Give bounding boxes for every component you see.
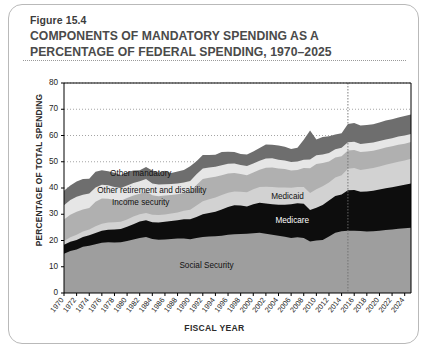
header-divider [23,60,406,61]
y-tick-label: 70 [49,104,59,113]
series-label: Medicare [275,216,309,225]
y-axis-ticks: 01020304050607080 [49,78,64,297]
page-title: COMPONENTS OF MANDATORY SPENDING AS A PE… [30,29,400,60]
y-tick-label: 40 [49,183,59,192]
figure-number: Figure 15.4 [30,14,400,27]
y-tick-label: 50 [49,157,59,166]
x-axis-label: FISCAL YEAR [9,323,420,333]
figure-header: Figure 15.4 COMPONENTS OF MANDATORY SPEN… [30,14,400,60]
series-label: Other mandatory [110,169,172,178]
chart-container: PERCENTAGE OF TOTAL SPENDING 01020304050… [9,65,420,340]
figure-title-line-1: COMPONENTS OF MANDATORY SPENDING AS A [30,29,400,45]
y-tick-label: 60 [49,131,59,140]
x-tick-label: 2024 [389,296,406,315]
stacked-area-chart: 01020304050607080 1970197219741976197819… [9,65,420,320]
series-label: Social Security [179,261,234,270]
y-tick-label: 30 [49,209,59,218]
y-tick-label: 80 [49,78,59,87]
figure-title-line-2: PERCENTAGE OF FEDERAL SPENDING, 1970–202… [30,45,400,61]
y-tick-label: 10 [49,262,59,271]
figure-card: Figure 15.4 COMPONENTS OF MANDATORY SPEN… [8,4,419,344]
y-tick-label: 20 [49,236,59,245]
series-label: Medicaid [271,192,304,201]
series-label: Other retirement and disability [97,186,207,195]
series-label: Income security [112,198,170,207]
x-axis-ticks: 1970197219741976197819801982198419861988… [48,293,406,314]
